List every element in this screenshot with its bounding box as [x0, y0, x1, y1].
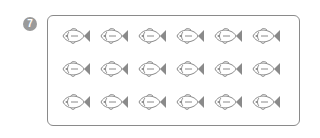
question-number-badge: 7: [23, 17, 37, 31]
fish-icon: [137, 92, 169, 112]
fish-icon: [213, 92, 245, 112]
fish-icon: [251, 59, 283, 79]
fish-icon: [251, 26, 283, 46]
fish-icon: [213, 59, 245, 79]
fish-icon: [251, 92, 283, 112]
fish-icon: [213, 26, 245, 46]
fish-icon: [99, 92, 131, 112]
fish-icon: [137, 26, 169, 46]
fish-icon: [99, 26, 131, 46]
fish-icon: [175, 26, 207, 46]
fish-icon: [61, 59, 93, 79]
fish-icon: [175, 59, 207, 79]
fish-icon: [175, 92, 207, 112]
fish-icon: [61, 26, 93, 46]
fish-grid: [61, 26, 289, 125]
fish-icon: [137, 59, 169, 79]
fish-icon: [99, 59, 131, 79]
fish-icon: [61, 92, 93, 112]
